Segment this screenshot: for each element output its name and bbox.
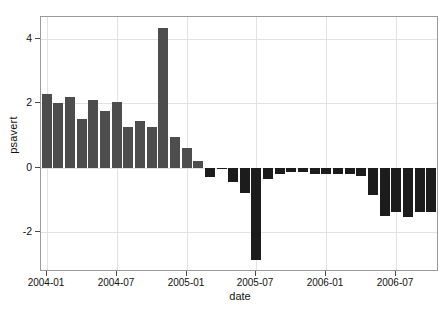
bar [368,168,378,195]
bar [263,168,273,179]
bar [356,168,366,176]
bar [251,168,261,261]
x-axis-tick-label: 2004-01 [16,277,76,288]
bar [112,102,122,168]
bar [321,168,331,174]
bar [217,168,227,170]
chart-figure: psavert 420-2 2004-012004-072005-012005-… [0,0,442,312]
gridline-vertical [187,17,188,270]
bar [286,168,296,173]
bar [333,168,343,174]
y-axis-tick-label: 0 [26,161,32,173]
bar [135,121,145,167]
bar [345,168,355,174]
gridline-horizontal [41,232,437,233]
gridline-vertical [396,17,397,270]
y-axis: 420-2 [18,16,40,271]
bar [42,94,52,168]
bar [147,127,157,167]
x-axis-tick-label: 2005-01 [156,277,216,288]
x-axis-tick-label: 2006-07 [365,277,425,288]
x-axis: 2004-012004-072005-012005-072006-012006-… [40,271,440,291]
bar [193,161,203,167]
bar [275,168,285,174]
x-axis-tick [325,271,326,276]
bar [65,97,75,167]
bar [403,168,413,218]
bar [88,100,98,167]
bar [391,168,401,213]
gridline-vertical [326,17,327,270]
x-axis-title: date [40,290,440,302]
bar [228,168,238,182]
bar [158,28,168,167]
x-axis-tick [186,271,187,276]
x-axis-tick [116,271,117,276]
bar [100,111,110,167]
bar [380,168,390,216]
gridline-horizontal [41,39,437,40]
x-axis-tick [255,271,256,276]
y-axis-tick-label: -2 [23,225,32,237]
y-axis-tick-label: 2 [26,96,32,108]
bar [170,137,180,167]
bar [426,168,436,213]
x-axis-tick-label: 2004-07 [86,277,146,288]
bar [182,148,192,167]
bar [298,168,308,173]
bar [123,127,133,167]
x-axis-tick-label: 2005-07 [225,277,285,288]
x-axis-tick [395,271,396,276]
bar [310,168,320,174]
y-axis-tick-label: 4 [26,32,32,44]
bar [240,168,250,194]
bar [205,168,215,178]
x-axis-tick-label: 2006-01 [295,277,355,288]
bar [53,103,63,167]
gridline-horizontal [41,103,437,104]
plot-panel [40,16,438,271]
bar [415,168,425,213]
bar [77,119,87,167]
x-axis-tick [46,271,47,276]
